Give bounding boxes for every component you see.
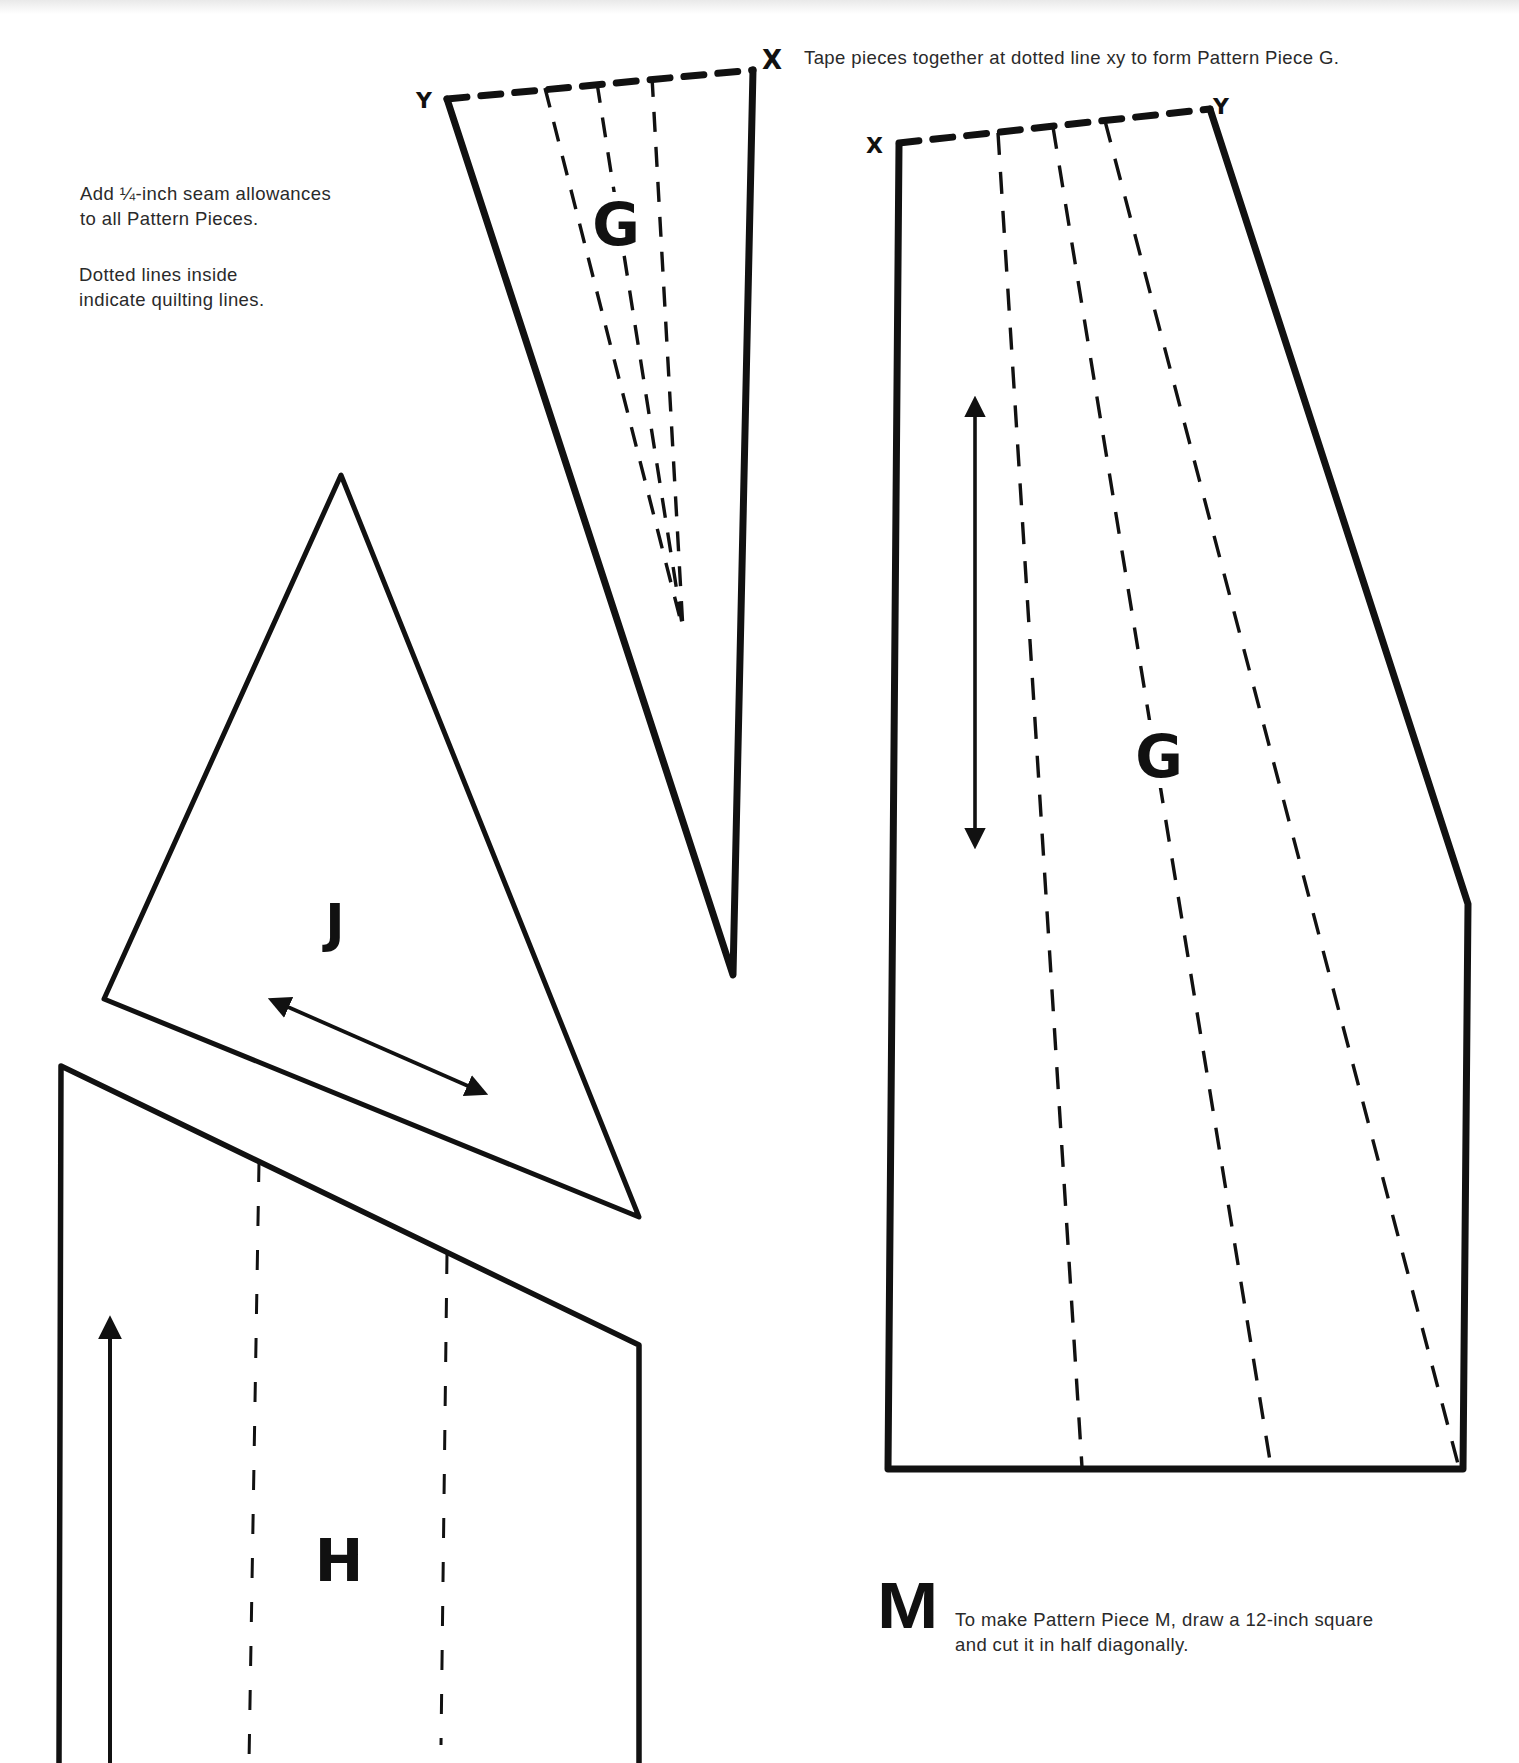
j-outline bbox=[104, 475, 639, 1217]
piece-label-j: J bbox=[322, 893, 344, 953]
pattern-piece-h: H bbox=[59, 1066, 639, 1763]
corner-label-x: X bbox=[866, 133, 883, 158]
piece-label-h: H bbox=[315, 1527, 364, 1595]
corner-label-y: Y bbox=[415, 88, 433, 113]
g-right-quilting-line-2 bbox=[1053, 127, 1271, 1467]
g-top-quilting-line-1 bbox=[545, 88, 683, 630]
corner-label-y: Y bbox=[1212, 94, 1230, 119]
h-quilting-line-1 bbox=[249, 1162, 259, 1763]
corner-label-x: X bbox=[762, 45, 782, 75]
quilting-lines-note: Dotted lines inside indicate quilting li… bbox=[79, 262, 264, 312]
piece-label-m: M bbox=[877, 1574, 936, 1638]
pattern-piece-g-right: G X Y bbox=[866, 94, 1468, 1469]
piece-label-g-right: G bbox=[1135, 723, 1183, 791]
piece-label-g-top: G bbox=[592, 191, 640, 259]
g-right-quilting-line-1 bbox=[998, 133, 1082, 1467]
pattern-piece-j: J bbox=[104, 475, 639, 1217]
piece-m-instruction-note: To make Pattern Piece M, draw a 12-inch … bbox=[955, 1607, 1373, 1657]
g-top-quilting-line-2 bbox=[597, 83, 683, 630]
h-quilting-line-2 bbox=[441, 1254, 447, 1745]
tape-instruction-note: Tape pieces together at dotted line xy t… bbox=[804, 45, 1339, 70]
pattern-piece-g-top: G Y X bbox=[415, 45, 782, 975]
h-outline bbox=[59, 1066, 639, 1763]
seam-allowance-note: Add ¼-inch seam allowances to all Patter… bbox=[80, 181, 331, 231]
g-top-quilting-line-3 bbox=[652, 77, 683, 630]
